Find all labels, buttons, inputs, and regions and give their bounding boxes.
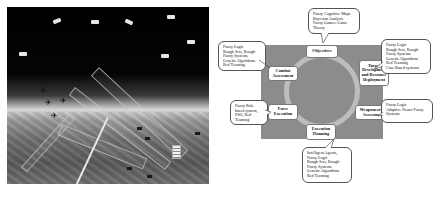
vehicle-icon [147,175,152,178]
satellite-icon [125,18,134,25]
aircraft-icon: ✈ [60,97,67,105]
vehicle-icon [137,127,142,130]
aircraft-icon: ✈ [40,87,47,95]
vehicle-icon [195,132,200,135]
aircraft-icon: ✈ [45,99,52,107]
satellite-icon [91,20,99,24]
building-icon [172,145,181,159]
satellite-icon [161,54,169,58]
vehicle-icon [145,137,150,140]
vehicle-icon [127,167,132,170]
battlefield-illustration: ✈ ✈ ✈ ✈ [7,7,209,184]
satellite-icon [167,15,175,19]
targeting-cycle-diagram: Objectives Target Development and Resour… [213,0,437,198]
callout-tails [213,0,437,198]
satellite-icon [53,18,62,24]
satellite-icon [187,40,195,44]
aircraft-icon: ✈ [51,112,58,120]
satellite-icon [19,52,27,56]
